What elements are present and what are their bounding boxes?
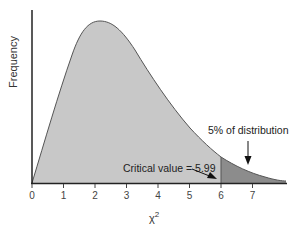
- svg-text:1: 1: [61, 190, 67, 201]
- distribution-tail: [221, 157, 286, 183]
- tail-arrow: [245, 141, 252, 165]
- tail-percent-label: 5% of distribution: [208, 124, 289, 136]
- distribution-body: [32, 21, 221, 183]
- svg-text:2: 2: [92, 190, 98, 201]
- chi-square-chart: 0 1 2 3 4 5 6 7 χ2 Frequency Critical va…: [0, 0, 295, 231]
- svg-text:5: 5: [187, 190, 193, 201]
- critical-value-label: Critical value = 5.99: [123, 162, 216, 174]
- svg-text:7: 7: [250, 190, 256, 201]
- x-tick-labels: 0 1 2 3 4 5 6 7: [29, 190, 256, 201]
- svg-text:6: 6: [218, 190, 224, 201]
- svg-text:0: 0: [29, 190, 35, 201]
- y-axis-title: Frequency: [7, 36, 19, 88]
- svg-text:3: 3: [124, 190, 130, 201]
- svg-text:4: 4: [155, 190, 161, 201]
- x-axis-title: χ2: [149, 210, 160, 224]
- x-ticks: [32, 184, 253, 188]
